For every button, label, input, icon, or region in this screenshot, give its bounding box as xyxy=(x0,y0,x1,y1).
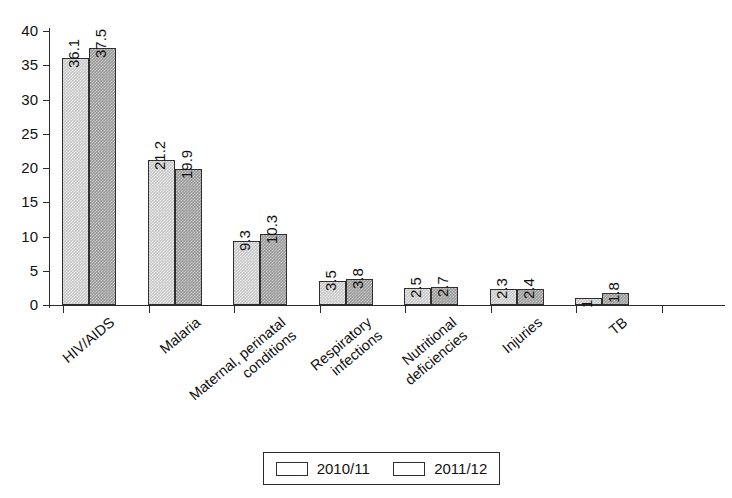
bar xyxy=(260,234,287,305)
x-axis-category-label: Nutritionaldeficiencies xyxy=(391,314,471,389)
x-axis-tick xyxy=(63,305,64,313)
y-axis-tick-label: 0 xyxy=(0,297,38,312)
bar xyxy=(148,160,175,305)
x-axis-tick xyxy=(662,305,663,313)
x-axis-category-label: TB xyxy=(605,314,630,339)
x-axis-category-label: Respiratoryinfections xyxy=(307,314,386,388)
bar-value-label: 37.5 xyxy=(93,29,108,58)
y-axis-tick-label: 30 xyxy=(0,92,38,107)
legend-swatch-2011 xyxy=(393,462,425,476)
y-axis-tick-label: 35 xyxy=(0,57,38,72)
x-axis-category-label: Injuries xyxy=(498,314,545,357)
x-axis-category-label: HIV/AIDS xyxy=(60,314,118,367)
y-axis-tick xyxy=(43,305,50,306)
bar xyxy=(62,58,89,305)
x-axis-category-line: Malaria xyxy=(156,314,203,357)
bar-value-label: 2.3 xyxy=(494,278,509,299)
bar-value-label: 2.5 xyxy=(408,277,423,298)
bar-value-label: 3.8 xyxy=(350,268,365,289)
bar-chart: 0510152025303540 36.137.521.219.99.310.3… xyxy=(0,0,732,498)
y-axis-tick-label: 20 xyxy=(0,160,38,175)
bar-value-label: 1 xyxy=(579,300,594,308)
x-axis-tick xyxy=(320,305,321,313)
x-axis-tick xyxy=(149,305,150,313)
plot-area: 36.137.521.219.99.310.33.53.82.52.72.32.… xyxy=(49,31,725,305)
legend-entry: 2011/12 xyxy=(393,461,487,476)
x-axis-tick xyxy=(405,305,406,313)
x-axis-category-line: TB xyxy=(606,314,630,338)
x-axis-category-label: Malaria xyxy=(156,314,204,358)
legend-swatch-2010 xyxy=(276,462,308,476)
x-axis-category-line: Injuries xyxy=(499,314,545,356)
legend-label: 2011/12 xyxy=(434,461,487,476)
x-axis-line xyxy=(49,305,725,306)
bar-value-label: 36.1 xyxy=(66,39,81,68)
bar-value-label: 21.2 xyxy=(152,141,167,170)
y-axis-tick-label: 40 xyxy=(0,23,38,38)
chart-legend: 2010/11 2011/12 xyxy=(263,452,500,485)
x-axis-category-line: HIV/AIDS xyxy=(60,314,118,366)
bar-value-label: 2.4 xyxy=(521,278,536,299)
x-axis-tick xyxy=(234,305,235,313)
legend-label: 2010/11 xyxy=(317,461,370,476)
bar-value-label: 1.8 xyxy=(606,282,621,303)
bar-value-label: 3.5 xyxy=(323,270,338,291)
y-axis-tick-label: 10 xyxy=(0,229,38,244)
bar-value-label: 10.3 xyxy=(264,215,279,244)
y-axis-tick-label: 25 xyxy=(0,126,38,141)
bar xyxy=(89,48,116,305)
x-axis-tick xyxy=(576,305,577,313)
legend-entry: 2010/11 xyxy=(276,461,370,476)
y-axis-tick-label: 15 xyxy=(0,194,38,209)
bar-value-label: 2.7 xyxy=(435,276,450,297)
bar xyxy=(175,169,202,305)
x-axis-tick xyxy=(491,305,492,313)
bar-value-label: 9.3 xyxy=(237,230,252,251)
x-axis-category-label: Maternal, perinatalconditions xyxy=(186,314,300,417)
y-axis-tick-label: 5 xyxy=(0,263,38,278)
bar-value-label: 19.9 xyxy=(179,149,194,178)
